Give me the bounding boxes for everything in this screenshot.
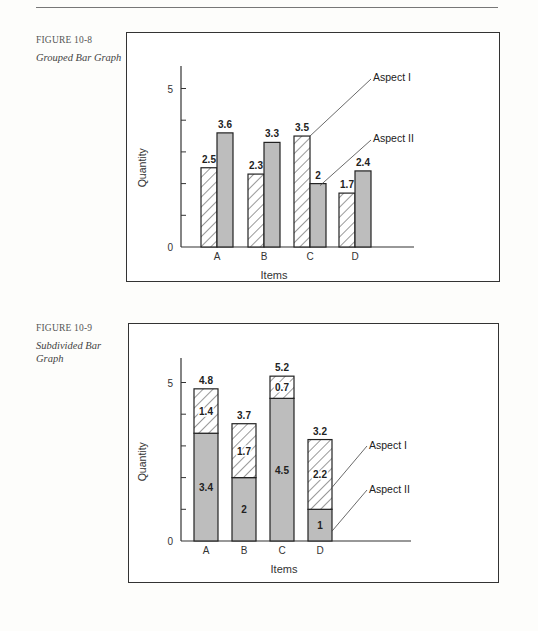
x-tick-label: D <box>351 251 358 262</box>
bar-value-label: 2 <box>315 170 321 181</box>
figure-10-8-caption: FIGURE 10-8 Grouped Bar Graph <box>36 35 126 64</box>
segment-value-label: 1 <box>317 520 323 531</box>
subdivided-bar-chart: 05QuantityItems3.41.44.8A21.73.7B4.50.75… <box>129 324 498 582</box>
annotation-aspect-ii: Aspect II <box>373 132 414 144</box>
annotation-aspect-i: Aspect I <box>373 71 411 83</box>
total-value-label: 3.2 <box>313 426 327 437</box>
bar-aspect-ii <box>310 184 326 247</box>
segment-value-label: 3.4 <box>199 482 213 493</box>
annotation-aspect-ii: Aspect II <box>369 483 410 495</box>
bar-value-label: 3.5 <box>295 122 309 133</box>
x-axis-label: Items <box>271 563 298 575</box>
bar-aspect-ii <box>217 133 233 247</box>
segment-value-label: 0.7 <box>275 382 289 393</box>
total-value-label: 4.8 <box>199 375 213 386</box>
annotation-leader <box>332 490 367 531</box>
page-top-rule <box>36 7 498 8</box>
bar-aspect-i <box>339 193 355 247</box>
x-tick-label: A <box>203 545 210 556</box>
grouped-bar-chart: 05QuantityItems2.53.6A2.33.3B3.52C1.72.4… <box>127 33 499 281</box>
y-axis-label: Quantity <box>136 441 148 481</box>
bar-value-label: 2.4 <box>356 157 370 168</box>
figure-number: FIGURE 10-8 <box>36 35 126 45</box>
annotation-aspect-i: Aspect I <box>369 439 407 451</box>
bar-aspect-i <box>201 168 217 247</box>
total-value-label: 3.7 <box>237 410 251 421</box>
bar-aspect-ii <box>355 171 371 247</box>
figure-title: Subdivided Bar Graph <box>36 339 126 365</box>
bar-aspect-i <box>248 174 264 247</box>
x-tick-label: C <box>278 545 285 556</box>
x-tick-label: B <box>241 545 248 556</box>
segment-value-label: 1.4 <box>199 406 213 417</box>
bar-value-label: 1.7 <box>340 179 354 190</box>
y-tick-label: 5 <box>167 84 173 95</box>
x-tick-label: D <box>316 545 323 556</box>
annotation-leader <box>332 446 367 487</box>
segment-value-label: 1.7 <box>237 446 251 457</box>
bar-value-label: 2.5 <box>202 154 216 165</box>
x-tick-label: B <box>261 251 268 262</box>
segment-value-label: 2.2 <box>313 469 327 480</box>
x-tick-label: A <box>214 251 221 262</box>
segment-value-label: 4.5 <box>275 465 289 476</box>
figure-10-9-caption: FIGURE 10-9 Subdivided Bar Graph <box>36 323 126 365</box>
y-axis-label: Quantity <box>136 147 148 187</box>
x-axis-label: Items <box>261 269 288 281</box>
y-tick-label: 5 <box>167 378 173 389</box>
y-tick-label: 0 <box>167 242 173 253</box>
figure-number: FIGURE 10-9 <box>36 323 126 333</box>
bar-value-label: 3.6 <box>218 119 232 130</box>
figure-10-8-frame: 05QuantityItems2.53.6A2.33.3B3.52C1.72.4… <box>126 32 500 282</box>
segment-value-label: 2 <box>241 504 247 515</box>
annotation-leader <box>310 79 371 136</box>
x-tick-label: C <box>306 251 313 262</box>
bar-value-label: 3.3 <box>265 128 279 139</box>
figure-10-9-frame: 05QuantityItems3.41.44.8A21.73.7B4.50.75… <box>128 323 499 583</box>
figure-title: Grouped Bar Graph <box>36 51 126 64</box>
bar-value-label: 2.3 <box>249 160 263 171</box>
y-tick-label: 0 <box>167 536 173 547</box>
bar-aspect-ii <box>264 142 280 247</box>
total-value-label: 5.2 <box>275 362 289 373</box>
bar-aspect-i <box>294 136 310 247</box>
